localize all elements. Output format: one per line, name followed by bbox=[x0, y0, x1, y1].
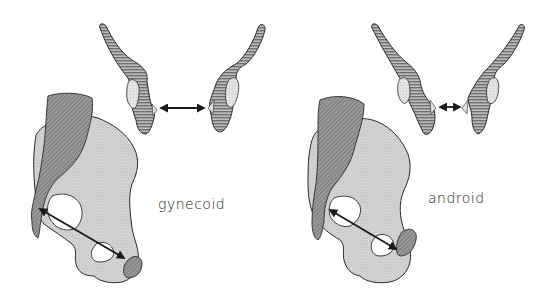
android-label: android bbox=[428, 190, 485, 206]
gynecoid-front-view-left-bone bbox=[100, 24, 157, 134]
gynecoid-front-view-right-bone bbox=[208, 24, 265, 132]
gynecoid-lateral-hip-bone bbox=[31, 93, 142, 283]
android-panel bbox=[308, 24, 524, 283]
gynecoid-label: gynecoid bbox=[158, 196, 225, 212]
pelvis-comparison-diagram bbox=[0, 0, 544, 298]
android-lateral-hip-bone bbox=[308, 97, 416, 283]
gynecoid-panel bbox=[31, 24, 265, 283]
android-front-view-left-bone bbox=[372, 24, 436, 135]
android-front-view-right-bone bbox=[462, 24, 524, 134]
